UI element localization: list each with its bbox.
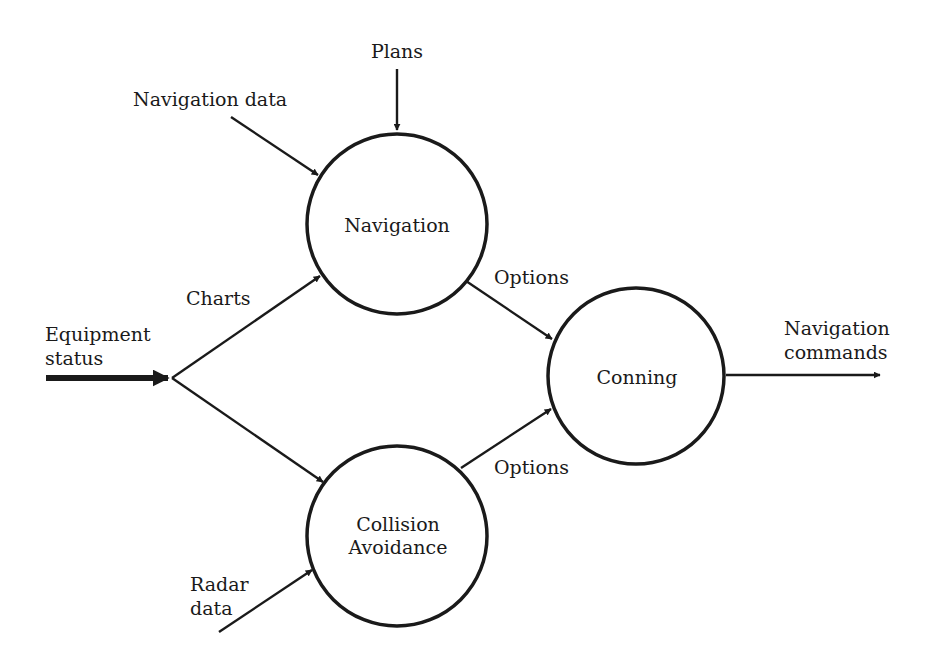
options-arrow-from-navigation (466, 281, 552, 339)
conning-node-label: Conning (597, 366, 678, 388)
navigation-node: Navigation (307, 134, 487, 314)
navigation-commands-label-line2: commands (784, 341, 888, 363)
navigation-data-arrow (231, 117, 318, 175)
equipment-arrow-to-collision (172, 378, 323, 482)
data-flow-diagram: Plans Navigation data Equipment status C… (0, 0, 925, 672)
navigation-data-label: Navigation data (133, 88, 287, 110)
equipment-status-label-line1: Equipment (45, 323, 151, 345)
navigation-commands-label-line1: Navigation (784, 317, 890, 339)
navigation-node-label: Navigation (344, 214, 450, 236)
collision-node-label-line2: Avoidance (348, 536, 448, 558)
options-label-top: Options (494, 266, 569, 288)
collision-avoidance-node: Collision Avoidance (307, 446, 487, 626)
charts-label: Charts (186, 287, 251, 309)
conning-node: Conning (548, 288, 724, 464)
radar-data-label-line1: Radar (190, 573, 250, 595)
collision-node-label-line1: Collision (356, 513, 440, 535)
options-label-bottom: Options (494, 456, 569, 478)
plans-label: Plans (371, 40, 423, 62)
radar-data-label-line2: data (190, 597, 232, 619)
equipment-status-label-line2: status (45, 347, 103, 369)
